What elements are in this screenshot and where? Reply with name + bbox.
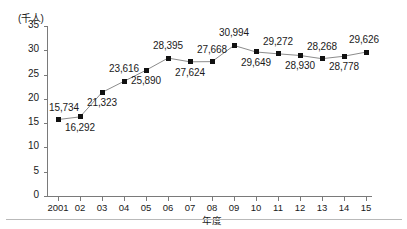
data-point-value-label: 28,268 [307, 41, 337, 52]
y-axis-tick-label: 20 [17, 92, 39, 103]
data-point-value-label: 29,272 [263, 36, 293, 47]
y-axis-tick-label: 5 [17, 165, 39, 176]
data-point-value-label: 29,626 [349, 34, 379, 45]
y-axis-tick-label: 0 [17, 189, 39, 200]
line-chart-plot [0, 0, 407, 229]
x-axis-tick-label: 04 [119, 202, 130, 213]
data-point-value-label: 28,930 [285, 60, 315, 71]
x-axis-tick-label: 05 [141, 202, 152, 213]
data-point-value-label: 25,890 [131, 75, 161, 86]
data-point-value-label: 21,323 [87, 97, 117, 108]
x-axis-tick-label: 2001 [47, 202, 68, 213]
x-axis-tick-label: 15 [361, 202, 372, 213]
x-axis-title: 年度 [202, 213, 222, 227]
data-point-value-label: 30,994 [219, 27, 249, 38]
data-point-value-label: 27,668 [197, 44, 227, 55]
y-axis-tick-label: 35 [17, 19, 39, 30]
x-axis-tick-label: 08 [207, 202, 218, 213]
data-point-value-label: 16,292 [65, 122, 95, 133]
data-point-value-label: 23,616 [109, 63, 139, 74]
y-axis-tick-label: 30 [17, 43, 39, 54]
x-axis-tick-label: 02 [75, 202, 86, 213]
y-axis-tick-label: 15 [17, 116, 39, 127]
data-point-value-label: 27,624 [175, 67, 205, 78]
x-axis-tick-label: 06 [163, 202, 174, 213]
chart-figure: (千人) 35302520151050 20010203040506070809… [0, 0, 407, 229]
x-axis-tick-label: 12 [295, 202, 306, 213]
data-point-value-label: 29,649 [241, 57, 271, 68]
x-axis-tick-label: 07 [185, 202, 196, 213]
x-axis-tick-label: 13 [317, 202, 328, 213]
x-axis-tick-label: 11 [273, 202, 283, 213]
x-axis-tick-label: 09 [229, 202, 240, 213]
y-axis-tick-label: 25 [17, 68, 39, 79]
data-point-value-label: 28,395 [153, 40, 183, 51]
data-point-value-label: 15,734 [49, 102, 79, 113]
data-point-value-label: 28,778 [329, 61, 359, 72]
data-point-markers [56, 43, 369, 122]
x-axis-tick-label: 10 [251, 202, 262, 213]
x-axis-tick-label: 03 [97, 202, 108, 213]
footer-divider [6, 219, 402, 220]
y-axis-tick-label: 10 [17, 140, 39, 151]
x-axis-tick-label: 14 [339, 202, 350, 213]
